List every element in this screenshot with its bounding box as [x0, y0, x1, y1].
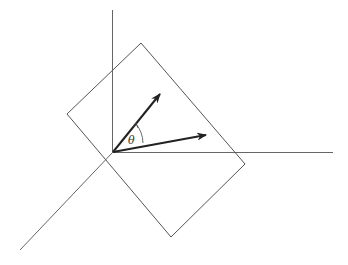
angle-theta-label: θ: [128, 134, 135, 147]
y-axis: [20, 152, 113, 250]
vector-b: [113, 135, 206, 152]
plane-rectangle: [67, 43, 245, 237]
diagram-svg: [0, 0, 348, 265]
angle-arc: [136, 124, 143, 143]
diagram-canvas: θ: [0, 0, 348, 265]
vector-a: [113, 94, 160, 152]
